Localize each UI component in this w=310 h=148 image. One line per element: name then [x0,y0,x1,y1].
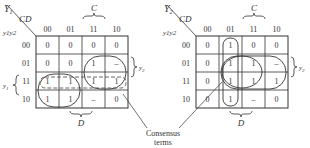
cell: 0 [92,41,96,50]
kmap-y1: Y1 CD y1y2 00 01 11 10 00 01 11 10 C 0 0… [2,3,145,128]
pointer-line [123,94,147,128]
y1-brace [13,75,19,95]
row-header: 11 [22,77,30,86]
col-header: 00 [204,25,212,34]
cell: 0 [206,41,210,50]
cell: 1 [229,95,233,104]
y2-label: y2 [298,64,305,73]
cell: 1 [115,77,119,86]
c-brace [83,13,105,19]
col-var-label: CD [19,14,32,24]
cell: 1 [46,77,50,86]
map-output-label: Y2 [164,3,173,15]
cell: 0 [206,59,210,68]
d-label: D [77,118,85,128]
cell: 0 [46,59,50,68]
col-var-label: CD [179,14,192,24]
consensus-term-loop [40,77,126,88]
cell: 0 [69,59,73,68]
cell: 1 [92,77,96,86]
d-brace [70,111,92,117]
map-output-label: Y1 [4,3,13,15]
c-label: C [91,3,98,13]
row-header: 01 [22,59,30,68]
col-header: 00 [44,25,52,34]
col-header: 11 [90,25,98,34]
karnaugh-maps-diagram: Y1 CD y1y2 00 01 11 10 00 01 11 10 C 0 0… [0,0,310,148]
cell: – [274,59,280,68]
d-label: D [237,118,245,128]
cell: 0 [206,77,210,86]
cell: 1 [69,95,73,104]
consensus-annotation: Consensus terms [123,82,222,147]
kmap-y2: Y2 CD y1y2 00 01 11 10 00 01 11 10 C 0 1… [162,3,305,128]
cell: 1 [252,59,256,68]
col-header: 10 [113,25,121,34]
row-header: 10 [182,95,190,104]
cell: 1 [275,77,279,86]
cell: 0 [275,95,279,104]
cell: 0 [69,41,73,50]
cell: 1 [69,77,73,86]
row-var-label: y1y2 [2,29,17,37]
row-header: 10 [22,95,30,104]
cell: – [91,95,97,104]
cell: 1 [229,41,233,50]
cell: 0 [46,41,50,50]
c-brace [243,13,265,19]
y1-label: y1 [2,82,9,91]
d-brace [230,111,252,117]
cell: 0 [275,41,279,50]
cell: 1 [229,59,233,68]
cell: 1 [92,59,96,68]
row-header: 00 [22,41,30,50]
row-header: 11 [182,77,190,86]
y2-label: y2 [138,64,145,73]
cell: – [114,59,120,68]
cell: – [251,95,257,104]
pointer-line [179,82,222,128]
y2-brace [131,57,137,77]
col-header: 11 [250,25,258,34]
cell: 0 [115,95,119,104]
annotation-line1: Consensus [146,129,180,138]
col-header: 10 [273,25,281,34]
cell: 0 [115,41,119,50]
col-header: 01 [227,25,235,34]
row-header: 00 [182,41,190,50]
cell: 0 [252,41,256,50]
row-var-label: y1y2 [162,29,177,37]
c-label: C [251,3,258,13]
col-header: 01 [67,25,75,34]
row-header: 01 [182,59,190,68]
y2-brace [291,57,297,77]
annotation-line2: terms [154,138,172,147]
cell: 1 [46,95,50,104]
